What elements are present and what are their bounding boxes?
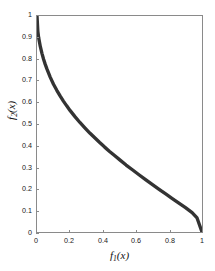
xtick-mark <box>136 230 137 233</box>
ytick-mark <box>36 211 39 212</box>
ytick-label-10: 1 <box>8 11 32 18</box>
ytick-mark <box>36 146 39 147</box>
y-axis-label: f2(x) <box>6 80 19 140</box>
ytick-label-9: 0.9 <box>8 33 32 40</box>
xtick-label-2: 0.4 <box>98 237 108 244</box>
ytick-mark <box>36 233 39 234</box>
y-axis-label-base: f <box>5 117 17 120</box>
plot-area <box>36 15 203 233</box>
x-axis-label-arg: (x) <box>117 249 129 261</box>
ytick-label-1: 0.1 <box>8 207 32 214</box>
ytick-label-4: 0.4 <box>8 142 32 149</box>
xtick-label-1: 0.2 <box>64 237 74 244</box>
xtick-label-3: 0.6 <box>131 237 141 244</box>
y-axis-label-arg: (x) <box>5 101 17 113</box>
ytick-mark <box>36 189 39 190</box>
xtick-label-4: 0.8 <box>165 237 175 244</box>
x-axis-label: f1(x) <box>36 250 203 263</box>
xtick-mark <box>202 230 203 233</box>
ytick-mark <box>36 168 39 169</box>
ytick-mark <box>36 37 39 38</box>
ytick-label-2: 0.2 <box>8 185 32 192</box>
ytick-mark <box>36 80 39 81</box>
y-axis-label-sub: 2 <box>10 113 19 117</box>
ytick-mark <box>36 15 39 16</box>
ytick-label-3: 0.3 <box>8 164 32 171</box>
xtick-mark <box>103 230 104 233</box>
ytick-mark <box>36 124 39 125</box>
xtick-mark <box>170 230 171 233</box>
figure-canvas: 0 0.1 0.2 0.3 0.4 0.5 0.6 0.7 0.8 0.9 1 … <box>0 0 215 271</box>
pareto-front-curve <box>37 16 202 232</box>
ytick-mark <box>36 59 39 60</box>
xtick-label-5: 1 <box>200 237 204 244</box>
curve-polyline <box>37 16 202 232</box>
xtick-label-0: 0 <box>34 237 38 244</box>
ytick-mark <box>36 102 39 103</box>
ytick-label-8: 0.8 <box>8 55 32 62</box>
xtick-mark <box>36 230 37 233</box>
ytick-label-0: 0 <box>8 229 32 236</box>
xtick-mark <box>69 230 70 233</box>
